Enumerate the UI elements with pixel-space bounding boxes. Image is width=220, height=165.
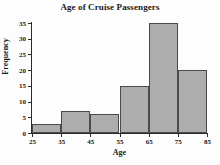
y-tick-mark [28,102,31,103]
bar [32,124,61,133]
x-tick-mark [61,134,62,137]
x-tick: 45 [90,134,91,137]
y-tick-mark [28,133,31,134]
x-tick-mark [90,134,91,137]
x-tick: 85 [207,134,208,137]
bars-group [32,23,207,133]
x-tick-label: 35 [58,138,65,146]
x-tick: 75 [178,134,179,137]
y-tick-mark [28,23,31,24]
y-tick-label: 15 [19,83,26,90]
x-tick-mark [149,134,150,137]
y-tick: 30 [28,39,31,40]
x-tick-label: 75 [175,138,182,146]
x-tick-label: 65 [146,138,153,146]
y-tick: 20 [28,70,31,71]
x-tick-label: 85 [204,138,211,146]
y-tick-mark [28,39,31,40]
y-tick-mark [28,86,31,87]
y-tick-label: 35 [19,20,26,27]
y-tick: 25 [28,54,31,55]
chart-title: Age of Cruise Passengers [0,1,220,13]
x-tick-mark [32,134,33,137]
y-tick-label: 10 [19,99,26,106]
y-tick: 10 [28,102,31,103]
y-tick-label: 30 [19,36,26,43]
bar [178,70,207,133]
y-tick-mark [28,70,31,71]
y-tick-label: 25 [19,51,26,58]
bar [61,111,90,133]
x-tick-label: 55 [117,138,124,146]
histogram-chart: Age of Cruise Passengers 05101520253035 … [0,0,220,165]
x-tick: 65 [149,134,150,137]
x-tick-label: 25 [29,138,36,146]
y-tick: 35 [28,23,31,24]
x-tick: 55 [120,134,121,137]
x-tick-mark [178,134,179,137]
bar [120,86,149,133]
x-tick-mark [207,134,208,137]
y-tick-label: 5 [23,114,27,121]
x-tick-mark [120,134,121,137]
bar [149,23,178,133]
y-tick: 5 [28,117,31,118]
y-tick: 0 [28,133,31,134]
x-tick: 35 [61,134,62,137]
y-tick-mark [28,54,31,55]
y-tick: 15 [28,86,31,87]
x-tick-label: 45 [87,138,94,146]
plot-area [32,23,207,133]
y-tick-mark [28,117,31,118]
x-tick: 25 [32,134,33,137]
y-tick-label: 0 [23,130,27,137]
bar [90,114,119,133]
y-tick-label: 20 [19,67,26,74]
x-axis-label: Age [32,148,207,157]
y-axis-label: Frequency [1,26,10,88]
